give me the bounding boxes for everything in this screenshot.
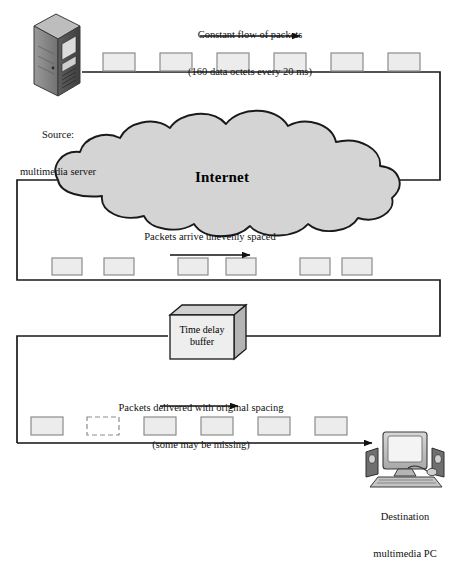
buffer-label: Time delay buffer xyxy=(170,324,234,348)
bottom-caption: Packets delivered with original spacing … xyxy=(98,377,304,476)
source-label: Source: multimedia server xyxy=(2,104,114,203)
buffer-label-line2: buffer xyxy=(170,336,234,348)
middle-caption: Packets arrive unevenly spaced xyxy=(110,231,310,243)
source-label-line1: Source: xyxy=(2,129,114,141)
destination-pc-icon xyxy=(366,432,444,487)
bottom-caption-line2: (some may be missing) xyxy=(98,439,304,451)
buffer-label-line1: Time delay xyxy=(170,324,234,336)
destination-label-line1: Destination xyxy=(353,511,457,523)
source-label-line2: multimedia server xyxy=(2,166,114,178)
top-caption-line2: (160 data octets every 20 ms) xyxy=(150,66,350,78)
top-caption-line1: Constant flow of packets xyxy=(150,29,350,41)
server-tower-icon xyxy=(34,14,80,96)
top-caption: Constant flow of packets (160 data octet… xyxy=(150,4,350,103)
cloud-label: Internet xyxy=(195,169,249,186)
bottom-caption-line1: Packets delivered with original spacing xyxy=(98,402,304,414)
destination-label-line2: multimedia PC xyxy=(353,548,457,560)
packet-row-middle xyxy=(52,258,372,275)
destination-label: Destination multimedia PC xyxy=(353,486,457,561)
